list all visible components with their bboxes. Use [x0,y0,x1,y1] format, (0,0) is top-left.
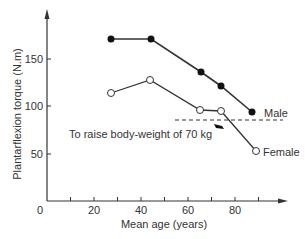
y-tick-label-150: 150 [25,53,43,65]
x-tick-label-60: 60 [182,204,194,216]
x-tick-label-80: 80 [229,204,241,216]
y-axis-arrow-icon [45,9,50,19]
male-point [218,83,225,90]
male-line [111,39,252,112]
x-tick-label-20: 20 [88,204,100,216]
male-point [249,109,256,116]
female-point [147,77,154,84]
female-point [108,90,115,97]
reference-arrow-icon [214,124,224,129]
y-axis-title: Plantarflexion torque (N.m) [11,48,23,179]
female-label: Female [263,146,300,158]
x-axis-title: Mean age (years) [121,218,207,230]
x-tick-label-40: 40 [135,204,147,216]
male-point [198,69,205,76]
male-label: Male [264,107,288,119]
male-markers [108,36,256,116]
female-point [197,107,204,114]
x-axis-arrow-icon [278,199,288,204]
female-point [253,148,260,155]
female-point [218,108,225,115]
male-point [148,36,155,43]
female-line [111,80,256,151]
y-tick-label-100: 100 [25,100,43,112]
female-markers [108,77,260,155]
chart: 0 20 40 60 80 150 100 50 Mean age (years… [0,0,305,239]
x-tick-label-0: 0 [37,204,43,216]
male-point [108,36,115,43]
reference-label: To raise body-weight of 70 kg [69,128,212,140]
y-tick-label-50: 50 [31,148,43,160]
